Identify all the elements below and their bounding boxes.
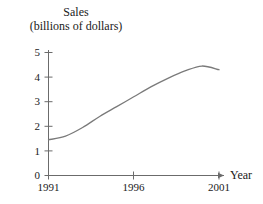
x-tick-label-1991: 1991 — [38, 181, 60, 193]
x-axis-name-label: Year — [230, 168, 252, 182]
y-tick-label-2: 2 — [35, 120, 41, 132]
y-tick-label-4: 4 — [35, 71, 41, 83]
x-tick-label-2001: 2001 — [208, 181, 230, 193]
y-tick-label-3: 3 — [35, 95, 41, 107]
y-tick-label-0: 0 — [35, 169, 41, 181]
plot-area: 0 1 2 3 4 5 1991 1996 2001 Year — [0, 0, 263, 204]
sales-data-line — [49, 66, 220, 140]
y-tick-label-5: 5 — [35, 46, 41, 58]
y-tick-label-1: 1 — [35, 145, 41, 157]
sales-line-chart-figure: Sales (billions of dollars) 0 1 2 3 4 5 … — [0, 0, 263, 204]
x-tick-label-1996: 1996 — [123, 181, 146, 193]
